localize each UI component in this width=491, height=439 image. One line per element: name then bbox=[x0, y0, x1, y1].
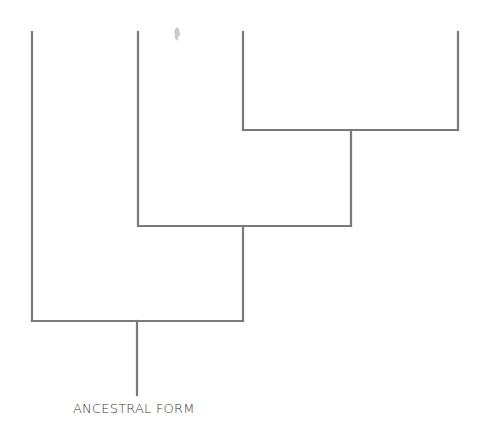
cladogram-diagram: ANCESTRAL FORM bbox=[0, 0, 491, 439]
ink-smudge-mark bbox=[173, 26, 182, 42]
cladogram-tree bbox=[0, 0, 491, 439]
ancestral-form-label: ANCESTRAL FORM bbox=[73, 401, 195, 416]
